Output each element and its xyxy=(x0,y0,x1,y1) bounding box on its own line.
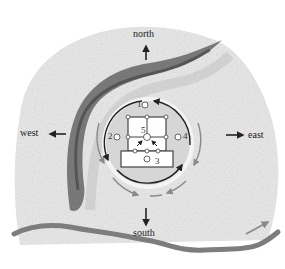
marker-4: 4 xyxy=(183,132,188,141)
north-label: north xyxy=(133,29,154,39)
east-label: east xyxy=(248,130,264,140)
marker-5: 5 xyxy=(141,126,146,135)
west-label: west xyxy=(20,128,38,138)
south-label: south xyxy=(133,228,155,238)
site-map-diagram: north south west east 1 2 3 4 5 xyxy=(0,0,285,269)
marker-2: 2 xyxy=(108,132,113,141)
marker-1: 1 xyxy=(137,100,142,109)
marker-3: 3 xyxy=(155,157,160,166)
